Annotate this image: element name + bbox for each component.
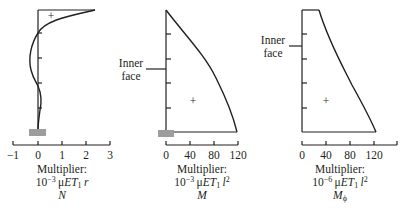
sign-plus: +: [190, 95, 197, 107]
fixed-base-hatch: [29, 129, 46, 136]
x-tick-label: 80: [208, 149, 220, 161]
panel-m: [146, 10, 238, 145]
caption-n: Multiplier: 10−3 μET1 r N: [22, 163, 102, 202]
moment-curve: [166, 10, 237, 132]
symbol: M: [162, 189, 242, 202]
x-tick-label: 0: [35, 149, 41, 161]
symbol: N: [22, 189, 102, 202]
x-tick-label: 120: [229, 149, 246, 161]
fixed-base-hatch: [158, 130, 174, 137]
x-tick-label: 3: [107, 149, 113, 161]
panel-mphi: [289, 10, 397, 145]
multiplier-expression: 10−6 μET1 l2: [298, 176, 382, 189]
x-tick-label: 0: [163, 149, 169, 161]
x-tick-label: 40: [320, 149, 332, 161]
symbol: Mϕ: [298, 189, 382, 202]
sign-plus: +: [323, 95, 330, 107]
x-tick-label: 40: [184, 149, 196, 161]
x-tick-label: 120: [365, 149, 382, 161]
multiplier-expression: 10−3 μET1 l2: [162, 176, 242, 189]
x-tick-label: −1: [7, 149, 19, 161]
x-tick-label: 0: [299, 149, 305, 161]
panel-n: [13, 10, 110, 145]
normal-force-curve: [30, 10, 95, 130]
caption-mphi: Multiplier: 10−6 μET1 l2 Mϕ: [298, 163, 382, 202]
multiplier-expression: 10−3 μET1 r: [22, 176, 102, 189]
inner-face-label: Inner face: [116, 57, 146, 83]
circumferential-moment-curve: [319, 10, 376, 132]
x-tick-label: 1: [59, 149, 65, 161]
x-tick-label: 80: [344, 149, 356, 161]
sign-plus: +: [48, 10, 55, 22]
caption-m: Multiplier: 10−3 μET1 l2 M: [162, 163, 242, 202]
inner-face-label: Inner face: [258, 34, 288, 60]
x-tick-label: 2: [83, 149, 89, 161]
